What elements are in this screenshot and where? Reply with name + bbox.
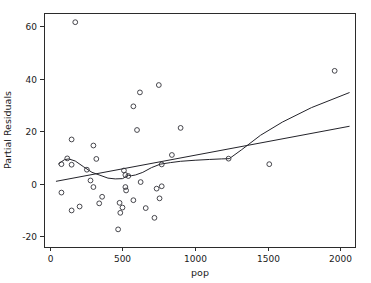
y-tick-label: 40 [26,75,38,85]
x-tick-label: 1000 [184,254,207,264]
scatter-point [159,184,164,189]
scatter-point [178,126,183,131]
scatter-point [332,68,337,73]
scatter-point [94,157,99,162]
axis-frame [45,14,356,248]
scatter-point [97,201,102,206]
scatter-point [69,162,74,167]
chart-canvas: 0500100015002000 -200204060 pop Partial … [0,0,371,283]
scatter-point [116,227,121,232]
scatter-point [143,206,148,211]
scatter-point [117,200,122,205]
scatter-point [138,90,143,95]
plot-frame [45,14,356,248]
y-tick-label: 20 [26,127,38,137]
scatter-point [120,205,125,210]
scatter-point [91,143,96,148]
scatter-point [88,178,93,183]
y-axis-title: Partial Residuals [2,91,13,169]
scatter-point [65,156,70,161]
scatter-point [124,188,129,193]
y-axis-ticks: -200204060 [22,22,44,242]
lowess-smooth-path [59,93,350,179]
x-axis-title: pop [191,267,209,278]
linear-fit-path [56,126,349,181]
scatter-point [267,162,272,167]
scatter-point [77,204,82,209]
scatter-point [100,194,105,199]
scatter-point [156,83,161,88]
scatter-point [135,128,140,133]
scatter-point [91,185,96,190]
x-tick-label: 1500 [257,254,280,264]
scatter-point [169,153,174,158]
y-tick-label: 60 [26,22,38,32]
scatter-point [154,186,159,191]
scatter-point [73,20,78,25]
scatter-point [59,190,64,195]
scatter-point [69,208,74,213]
scatter-points [59,20,337,232]
x-tick-label: 500 [114,254,131,264]
x-tick-label: 0 [48,254,54,264]
scatter-point [69,137,74,142]
y-tick-label: 0 [31,180,37,190]
scatter-point [118,210,123,215]
scatter-point [157,196,162,201]
x-axis-ticks: 0500100015002000 [48,247,353,264]
fit-lines [56,93,349,182]
scatter-point [138,180,143,185]
scatter-point [152,215,157,220]
x-tick-label: 2000 [329,254,352,264]
scatter-point [59,162,64,167]
y-tick-label: -20 [22,232,37,242]
scatter-point [131,198,136,203]
scatter-point [131,104,136,109]
partial-residual-plot: 0500100015002000 -200204060 pop Partial … [0,0,371,283]
